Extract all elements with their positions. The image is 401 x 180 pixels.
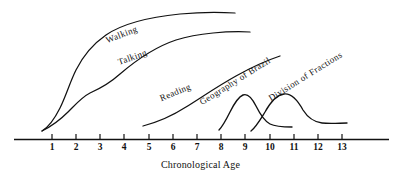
x-tick-label-10: 10 bbox=[265, 142, 275, 152]
x-tick-label-6: 6 bbox=[171, 142, 176, 152]
x-tick-label-5: 5 bbox=[147, 142, 152, 152]
x-tick-label-11: 11 bbox=[290, 142, 299, 152]
x-tick-label-7: 7 bbox=[195, 142, 200, 152]
x-tick-label-8: 8 bbox=[219, 142, 224, 152]
x-tick-label-9: 9 bbox=[243, 142, 248, 152]
curve-geography-of-brazil bbox=[219, 95, 292, 130]
x-tick-label-4: 4 bbox=[122, 142, 127, 152]
learning-curves-figure: Walking Talking Reading Geography of Bra… bbox=[0, 0, 401, 180]
curve-walking bbox=[42, 12, 235, 131]
x-axis-ticks bbox=[52, 134, 342, 139]
x-tick-label-3: 3 bbox=[98, 142, 103, 152]
x-axis-title: Chronological Age bbox=[0, 159, 401, 170]
x-tick-label-2: 2 bbox=[74, 142, 79, 152]
x-tick-label-13: 13 bbox=[337, 142, 347, 152]
x-tick-label-1: 1 bbox=[50, 142, 55, 152]
chart-canvas bbox=[0, 0, 401, 180]
x-tick-label-12: 12 bbox=[313, 142, 323, 152]
curve-division-of-fractions bbox=[251, 94, 347, 131]
curve-talking bbox=[42, 32, 250, 131]
